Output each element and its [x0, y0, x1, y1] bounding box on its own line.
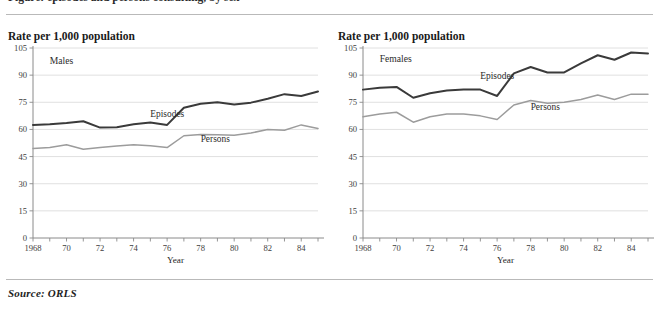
figure-page: Figure: episodes and persons consulting,… [0, 0, 659, 309]
svg-text:76: 76 [493, 243, 502, 253]
svg-text:105: 105 [344, 43, 357, 53]
source-note: Source: ORLS [8, 287, 77, 299]
svg-text:75: 75 [18, 97, 27, 107]
svg-text:Persons: Persons [201, 134, 231, 144]
svg-text:45: 45 [348, 152, 357, 162]
svg-text:76: 76 [163, 243, 172, 253]
svg-text:84: 84 [627, 243, 636, 253]
line-chart-males: 015304560759010519687072747678808284Year… [0, 40, 330, 280]
svg-text:78: 78 [196, 243, 205, 253]
svg-text:60: 60 [18, 124, 27, 134]
chart-panel-females: Rate per 1,000 population 01530456075901… [330, 30, 659, 280]
svg-text:30: 30 [18, 179, 27, 189]
svg-text:Females: Females [380, 53, 412, 64]
svg-text:Episodes: Episodes [150, 109, 184, 119]
svg-text:90: 90 [348, 70, 357, 80]
svg-text:0: 0 [23, 233, 27, 243]
svg-text:80: 80 [230, 243, 239, 253]
svg-text:0: 0 [353, 233, 357, 243]
chart-panel-males: Rate per 1,000 population 01530456075901… [0, 30, 330, 280]
svg-text:1968: 1968 [24, 243, 41, 253]
svg-text:1968: 1968 [354, 243, 371, 253]
svg-text:Episodes: Episodes [480, 71, 514, 81]
svg-text:72: 72 [96, 243, 105, 253]
svg-text:15: 15 [18, 206, 27, 216]
svg-text:Males: Males [50, 55, 74, 66]
svg-text:82: 82 [263, 243, 272, 253]
svg-text:15: 15 [348, 206, 357, 216]
svg-text:60: 60 [348, 124, 357, 134]
svg-text:45: 45 [18, 152, 27, 162]
svg-text:70: 70 [62, 243, 71, 253]
svg-text:74: 74 [129, 243, 138, 253]
line-chart-females: 015304560759010519687072747678808284Year… [330, 40, 659, 280]
svg-text:Persons: Persons [531, 102, 561, 112]
svg-text:72: 72 [426, 243, 435, 253]
svg-text:Year: Year [167, 255, 184, 265]
divider-bottom [6, 279, 653, 280]
divider-top [6, 14, 653, 15]
svg-text:78: 78 [526, 243, 535, 253]
svg-text:70: 70 [392, 243, 401, 253]
svg-text:90: 90 [18, 70, 27, 80]
cropped-heading-text: Figure: episodes and persons consulting,… [8, 0, 239, 3]
cropped-heading-strip: Figure: episodes and persons consulting,… [0, 0, 659, 13]
svg-text:82: 82 [593, 243, 602, 253]
svg-text:75: 75 [348, 97, 357, 107]
svg-text:80: 80 [560, 243, 569, 253]
svg-text:84: 84 [297, 243, 306, 253]
svg-text:Year: Year [497, 255, 514, 265]
svg-text:30: 30 [348, 179, 357, 189]
svg-text:74: 74 [459, 243, 468, 253]
svg-text:105: 105 [14, 43, 27, 53]
